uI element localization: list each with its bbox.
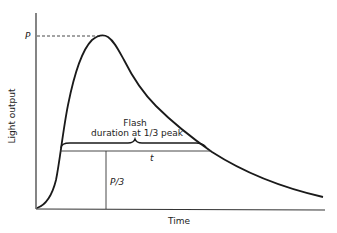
flash-light-output-diagram: P Flash duration at 1/3 peak t P/3 Time …	[0, 0, 337, 233]
duration-label: t	[150, 153, 154, 163]
x-axis-label: Time	[167, 216, 190, 226]
brace-label-line2: duration at 1/3 peak	[91, 128, 184, 138]
x-axis	[36, 209, 325, 210]
light-output-curve	[37, 36, 323, 208]
brace-label-line1: Flash	[123, 118, 147, 128]
y-axis-label: Light output	[7, 88, 17, 143]
peak-label: P	[25, 31, 31, 41]
duration-brace	[61, 139, 206, 148]
third-peak-label: P/3	[110, 177, 124, 187]
